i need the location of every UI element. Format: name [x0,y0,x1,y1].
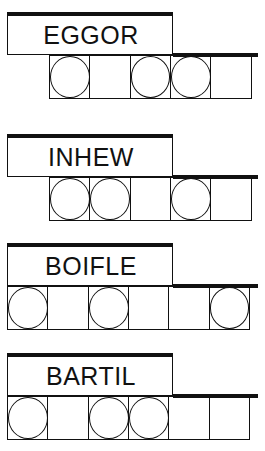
answer-cell[interactable] [168,286,210,330]
answer-cell[interactable] [47,396,89,440]
circle-marker-icon [50,178,90,220]
circle-marker-icon [210,287,250,329]
answer-cell-circled[interactable] [49,177,91,221]
scrambled-word: BARTIL [44,364,136,389]
cell-row-top-border [173,175,258,179]
answer-cell-circled[interactable] [88,286,130,330]
word-puzzle: BOIFLE [0,243,265,333]
circle-marker-icon [131,56,171,98]
scrambled-word-box: BARTIL [7,353,173,396]
circle-marker-icon [90,178,130,220]
answer-cell-circled[interactable] [130,55,172,99]
circle-marker-icon [129,397,169,439]
answer-cell-circled[interactable] [7,396,49,440]
circle-marker-icon [171,56,211,98]
answer-cell[interactable] [47,286,89,330]
scrambled-word: INHEW [46,145,134,170]
answer-cell[interactable] [210,55,252,99]
circle-marker-icon [50,56,90,98]
cell-row-top-border [173,284,258,288]
circle-marker-icon [8,287,48,329]
answer-cell[interactable] [128,286,170,330]
answer-cells [7,286,250,330]
answer-cell[interactable] [209,396,251,440]
scrambled-word: BOIFLE [43,254,137,279]
answer-cell-circled[interactable] [88,396,130,440]
word-puzzle: BARTIL [0,353,265,443]
answer-cell-circled[interactable] [170,55,212,99]
answer-cells [49,55,252,99]
answer-cell[interactable] [89,55,131,99]
answer-cell[interactable] [210,177,252,221]
cell-row-top-border [173,53,258,57]
word-puzzle: EGGOR [0,12,265,102]
scrambled-word-box: INHEW [7,134,173,177]
circle-marker-icon [89,397,129,439]
cell-row-top-border [173,394,258,398]
word-puzzle: INHEW [0,134,265,224]
answer-cell-circled[interactable] [89,177,131,221]
answer-cell-circled[interactable] [209,286,251,330]
answer-cell-circled[interactable] [170,177,212,221]
answer-cells [7,396,250,440]
answer-cell-circled[interactable] [49,55,91,99]
circle-marker-icon [89,287,129,329]
answer-cells [49,177,252,221]
circle-marker-icon [8,397,48,439]
scrambled-word: EGGOR [41,23,139,48]
scrambled-word-box: BOIFLE [7,243,173,286]
answer-cell-circled[interactable] [128,396,170,440]
scrambled-word-box: EGGOR [7,12,173,55]
answer-cell-circled[interactable] [7,286,49,330]
answer-cell[interactable] [130,177,172,221]
answer-cell[interactable] [168,396,210,440]
circle-marker-icon [171,178,211,220]
